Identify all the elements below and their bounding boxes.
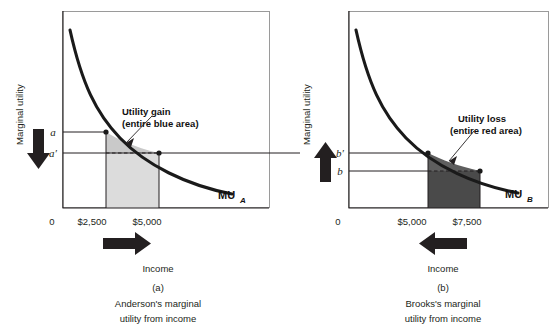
panel-b-point-b bbox=[477, 168, 482, 173]
panel-a-caption-line1: Anderson's marginal bbox=[115, 298, 201, 309]
panel-b-point-bprime bbox=[425, 150, 430, 155]
panel-a-callout-line1: Utility gain bbox=[122, 106, 171, 117]
panel-b-level-label-bprime: b′ bbox=[336, 147, 345, 159]
panel-a-curve-subscript: A bbox=[239, 196, 246, 205]
panel-a-caption-line2: utility from income bbox=[120, 313, 197, 324]
panel-b-origin-label: 0 bbox=[335, 216, 340, 227]
panel-b-panel-label: (b) bbox=[437, 282, 449, 293]
panel-b-level-label-b: b bbox=[337, 165, 343, 177]
panel-a-panel-label: (a) bbox=[152, 282, 164, 293]
panel-b-utility-up-arrow bbox=[314, 142, 337, 182]
panel-b-xtick-0: $5,000 bbox=[397, 216, 426, 227]
panel-a-curve-label: MU bbox=[218, 189, 235, 201]
panel-b: Utility loss (entire red area) b′ b MU B… bbox=[301, 11, 549, 324]
marginal-utility-figure: Utility gain (entire blue area) a a′ MU … bbox=[0, 0, 559, 331]
panel-a-y-axis-label: Marginal utility bbox=[14, 84, 25, 145]
panel-a-xtick-0: $2,500 bbox=[77, 216, 106, 227]
panel-a: Utility gain (entire blue area) a a′ MU … bbox=[14, 11, 300, 324]
panel-a-level-label-a: a bbox=[50, 126, 56, 138]
panel-a-level-label-aprime: a′ bbox=[49, 147, 58, 159]
panel-a-point-a bbox=[103, 129, 108, 134]
panel-b-caption-line1: Brooks's marginal bbox=[405, 298, 480, 309]
panel-b-shaded-rect bbox=[428, 171, 480, 208]
panel-a-point-aprime bbox=[156, 150, 161, 155]
panel-b-x-axis-label: Income bbox=[427, 263, 458, 274]
panel-b-y-axis-label: Marginal utility bbox=[301, 84, 312, 145]
panel-a-utility-down-arrow bbox=[27, 129, 50, 169]
panel-b-callout-line2: (entire red area) bbox=[450, 125, 522, 136]
panel-a-xtick-1: $5,000 bbox=[132, 216, 161, 227]
panel-a-income-right-arrow bbox=[103, 232, 151, 255]
panel-a-callout-line2: (entire blue area) bbox=[122, 118, 199, 129]
panel-b-income-left-arrow bbox=[419, 232, 467, 255]
panel-b-callout-line1: Utility loss bbox=[458, 113, 506, 124]
panel-b-xtick-1: $7,500 bbox=[452, 216, 481, 227]
panel-b-curve-subscript: B bbox=[527, 195, 533, 204]
panel-b-caption-line2: utility from income bbox=[405, 313, 482, 324]
figure-container: Utility gain (entire blue area) a a′ MU … bbox=[0, 0, 559, 331]
panel-a-origin-label: 0 bbox=[49, 216, 54, 227]
panel-b-curve-label: MU bbox=[505, 188, 522, 200]
panel-a-x-axis-label: Income bbox=[142, 263, 173, 274]
